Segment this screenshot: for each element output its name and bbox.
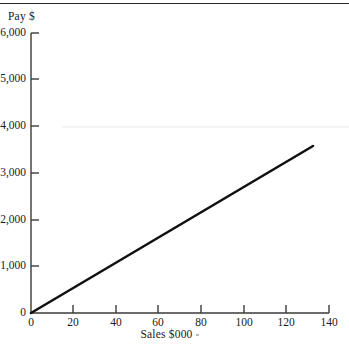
x-axis-title-text: Sales $000 [140,328,192,340]
y-tick-label-5000: 5,000 [0,72,26,84]
pay-vs-sales-chart: Pay $ 6,000 5,000 4,000 3,0 [0,0,349,347]
x-tick-label-80: 80 [191,316,211,328]
x-tick-label-40: 40 [106,316,126,328]
x-axis-title: Sales $000 [0,328,349,340]
x-axis-ticks [73,305,329,313]
x-tick-label-120: 120 [276,316,296,328]
x-tick-label-60: 60 [148,316,168,328]
y-tick-label-6000: 6,000 [0,26,26,38]
x-tick-label-0: 0 [21,316,41,328]
y-tick-label-3000: 3,000 [0,166,26,178]
x-tick-label-20: 20 [63,316,83,328]
y-tick-label-2000: 2,000 [0,213,26,225]
chart-canvas [0,0,349,347]
pay-line-series [31,146,313,313]
x-tick-label-140: 140 [319,316,339,328]
y-axis-ticks [31,33,39,266]
x-tick-label-100: 100 [234,316,254,328]
y-tick-label-4000: 4,000 [0,119,26,131]
y-tick-label-1000: 1,000 [0,259,26,271]
